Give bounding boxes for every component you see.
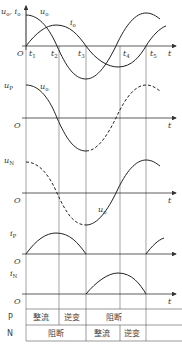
svg-text:uo, io: uo, io [1, 7, 21, 17]
svg-text:uN: uN [4, 156, 14, 166]
svg-text:整流: 整流 [33, 312, 49, 322]
svg-text:O: O [14, 121, 21, 130]
svg-text:uo: uo [98, 205, 107, 215]
svg-text:iN: iN [10, 269, 18, 279]
svg-text:t1: t1 [29, 49, 36, 59]
svg-text:逆变: 逆变 [64, 312, 80, 322]
svg-text:逆变: 逆变 [124, 328, 140, 338]
svg-text:P: P [8, 313, 13, 322]
panel-un: uN uo O t [4, 156, 176, 225]
panel-ip: iP O [10, 229, 176, 266]
panel-in: iN O t [10, 269, 176, 306]
svg-text:io: io [70, 18, 77, 28]
svg-text:t: t [168, 121, 172, 130]
svg-text:O: O [17, 49, 24, 58]
svg-text:t4: t4 [123, 49, 130, 59]
svg-text:t2: t2 [51, 49, 58, 59]
svg-text:t5: t5 [150, 49, 157, 59]
svg-text:t: t [168, 297, 172, 306]
svg-text:t3: t3 [78, 49, 85, 59]
svg-text:N: N [7, 329, 13, 338]
svg-text:阻断: 阻断 [48, 328, 64, 338]
svg-text:O: O [14, 196, 21, 205]
svg-text:整流: 整流 [94, 328, 110, 338]
svg-text:阻断: 阻断 [106, 312, 122, 322]
svg-text:uP: uP [4, 81, 13, 91]
svg-text:uo: uo [40, 82, 49, 92]
panel-u0-i0: uo, io uo io O t1 t2 t3 t4 t5 t [1, 6, 176, 79]
svg-text:uo: uo [40, 7, 49, 17]
svg-text:t: t [168, 196, 172, 205]
svg-text:O: O [14, 297, 21, 306]
svg-text:t: t [168, 49, 172, 58]
panel-up: uP uo O t [4, 81, 176, 151]
svg-text:iP: iP [10, 229, 17, 239]
svg-text:O: O [14, 257, 21, 266]
waveform-diagram: uo, io uo io O t1 t2 t3 t4 t5 t uP uo O … [0, 0, 182, 349]
